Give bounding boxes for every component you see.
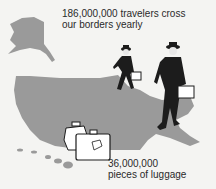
travelers-caption: 186,000,000 travelers cross our borders … — [62, 8, 202, 30]
travelers-sub-text: our borders yearly — [62, 19, 202, 30]
travelers-count-text: 186,000,000 travelers cross — [62, 8, 202, 19]
luggage-sub-text: pieces of luggage — [108, 169, 208, 180]
luggage-count-text: 36,000,000 — [108, 158, 208, 169]
luggage-caption: 36,000,000 pieces of luggage — [108, 158, 208, 180]
hawaii-islands — [17, 149, 73, 169]
alaska-map-shape — [8, 17, 55, 62]
